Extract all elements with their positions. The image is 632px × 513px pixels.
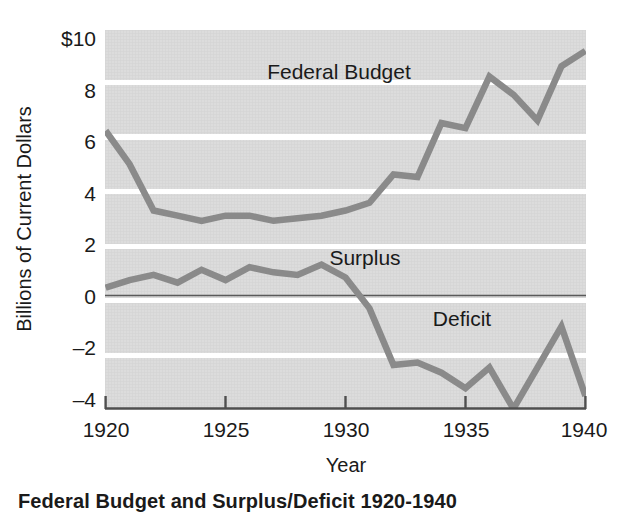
y-tick-8: 8 <box>84 79 96 102</box>
surplus-label: Surplus <box>329 246 400 269</box>
federal-budget-label: Federal Budget <box>267 60 411 83</box>
y-tick-10: $10 <box>61 27 96 50</box>
figure-caption: Federal Budget and Surplus/Deficit 1920-… <box>18 490 457 513</box>
y-tick-neg2: –2 <box>73 336 96 359</box>
y-tick-2: 2 <box>84 233 96 256</box>
x-tick-1920: 1920 <box>83 418 130 441</box>
x-axis-title: Year <box>326 454 367 476</box>
y-tick-neg4: –4 <box>73 388 97 411</box>
x-tick-1925: 1925 <box>203 418 250 441</box>
y-tick-labels: $10 8 6 4 2 0 –2 –4 <box>61 27 96 411</box>
deficit-label: Deficit <box>433 307 492 330</box>
y-axis-title: Billions of Current Dollars <box>13 106 35 332</box>
x-tick-1935: 1935 <box>443 418 490 441</box>
y-tick-6: 6 <box>84 130 96 153</box>
x-tick-1940: 1940 <box>561 418 608 441</box>
plot-background-bands <box>105 30 586 408</box>
y-tick-4: 4 <box>84 182 96 205</box>
x-tick-1930: 1930 <box>323 418 370 441</box>
y-tick-0: 0 <box>84 285 96 308</box>
x-tick-labels: 1920 1925 1930 1935 1940 <box>83 418 608 441</box>
